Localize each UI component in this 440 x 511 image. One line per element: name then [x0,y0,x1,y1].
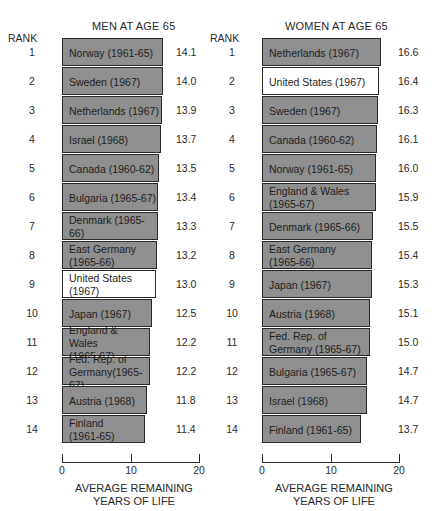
men-tick-label-0: 0 [52,464,72,476]
bar-label: Sweden (1967) [269,97,340,125]
men-row: 4Israel (1968)13.7 [0,125,220,154]
bar: Sweden (1967) [62,67,163,95]
rank-number: 14 [222,423,242,435]
men-row: 7Denmark (1965-66)13.3 [0,212,220,241]
women-tick-label-0: 0 [252,464,272,476]
women-row: 9Japan (1967)15.3 [220,270,440,299]
bar-value: 13.2 [176,249,196,261]
bar: Israel (1968) [262,386,367,414]
bar-value: 16.1 [398,133,418,145]
bar: Finland (1961-65) [62,415,145,443]
bar: Norway (1961-65) [262,154,376,182]
men-row: 14Finland (1961-65)11.4 [0,415,220,444]
bar-value: 15.9 [398,191,418,203]
bar-label: Fed. Rep. of Germany (1965-67) [269,329,361,357]
rank-number: 8 [22,249,42,261]
bar-value: 13.9 [176,104,196,116]
women-panel: WOMEN AT AGE 65 RANK 1Netherlands (1967)… [220,0,440,511]
rank-number: 11 [22,336,42,348]
women-row: 4Canada (1960-62)16.1 [220,125,440,154]
men-row: 9United States (1967)13.0 [0,270,220,299]
bar: Bulgaria (1965-67) [62,183,158,211]
bar: Finland (1961-65) [262,415,361,443]
rank-number: 7 [22,220,42,232]
bar-value: 16.4 [398,75,418,87]
bar-value: 13.3 [176,220,196,232]
women-row: 5Norway (1961-65)16.0 [220,154,440,183]
rank-number: 12 [222,365,242,377]
bar-value: 15.1 [398,307,418,319]
rank-number: 4 [22,133,42,145]
bar-value: 12.2 [176,336,196,348]
bar: Netherlands (1967) [262,38,381,66]
women-row: 12Bulgaria (1965-67)14.7 [220,357,440,386]
bar: Canada (1960-62) [62,154,159,182]
highlighted-bar: United States (1967) [262,67,379,95]
women-row: 10Austria (1968)15.1 [220,299,440,328]
bar-value: 14.0 [176,75,196,87]
men-panel: MEN AT AGE 65 RANK 1Norway (1961-65)14.1… [0,0,220,511]
bar: Canada (1960-62) [262,125,377,153]
bar-label: East Germany (1965-66) [69,242,136,270]
men-row: 3Netherlands (1967)13.9 [0,96,220,125]
bar-label: Finland (1961-65) [269,416,352,444]
bar-label: Netherlands (1967) [69,97,159,125]
bar-label: Denmark (1965-66) [69,213,157,241]
men-tick-label-20: 20 [189,464,209,476]
rank-number: 14 [22,423,42,435]
bar: Bulgaria (1965-67) [262,357,367,385]
bar: Israel (1968) [62,125,161,153]
men-tick-20 [199,454,200,463]
men-axis-title-line2: YEARS OF LIFE [54,495,214,508]
rank-number: 1 [22,46,42,58]
bar-value: 16.0 [398,162,418,174]
bar-label: Finland (1961-65) [69,416,115,444]
men-row: 8East Germany (1965-66)13.2 [0,241,220,270]
bar-value: 11.4 [176,423,196,435]
women-tick-label-20: 20 [389,464,409,476]
men-row: 1Norway (1961-65)14.1 [0,38,220,67]
bar-value: 12.5 [176,307,196,319]
rank-number: 9 [222,278,242,290]
men-row: 5Canada (1960-62)13.5 [0,154,220,183]
bar-value: 13.4 [176,191,196,203]
rank-number: 10 [222,307,242,319]
rank-number: 10 [22,307,42,319]
bar-label: Norway (1961-65) [269,155,353,183]
women-axis-title-line2: YEARS OF LIFE [254,495,414,508]
women-row: 8East Germany (1965-66)15.4 [220,241,440,270]
bar-label: United States (1967) [269,68,365,96]
men-row: 12Fed. Rep. of Germany(1965-67)12.2 [0,357,220,386]
bar: Japan (1967) [262,270,372,298]
bar-label: Canada (1960-62) [269,126,354,154]
bar: Norway (1961-65) [62,38,163,66]
bar: East Germany (1965-66) [262,241,372,269]
bar: East Germany (1965-66) [62,241,157,269]
men-row: 13Austria (1968)11.8 [0,386,220,415]
men-row: 6Bulgaria (1965-67)13.4 [0,183,220,212]
bar-label: Japan (1967) [269,271,331,299]
bar: Netherlands (1967) [62,96,162,124]
bar: England & Wales (1965-67) [262,183,376,211]
rank-number: 6 [22,191,42,203]
bar-label: Austria (1968) [269,300,335,328]
women-tick-20 [399,454,400,463]
women-row: 13Israel (1968)14.7 [220,386,440,415]
bar-value: 14.7 [398,394,418,406]
bar-value: 13.7 [398,423,418,435]
bar-label: Canada (1960-62) [69,155,154,183]
bar-label: Norway (1961-65) [69,39,153,67]
bar: Austria (1968) [62,386,147,414]
bar-label: Israel (1968) [69,126,128,154]
women-row: 11Fed. Rep. of Germany (1965-67)15.0 [220,328,440,357]
women-tick-10 [331,454,332,463]
bar-label: Netherlands (1967) [269,39,359,67]
women-chart-title: WOMEN AT AGE 65 [285,20,388,32]
rank-number: 6 [222,191,242,203]
rank-number: 13 [22,394,42,406]
bar-label: Bulgaria (1965-67) [69,184,156,212]
rank-number: 9 [22,278,42,290]
bar-label: Austria (1968) [69,387,135,415]
rank-number: 2 [22,75,42,87]
bar-value: 14.7 [398,365,418,377]
